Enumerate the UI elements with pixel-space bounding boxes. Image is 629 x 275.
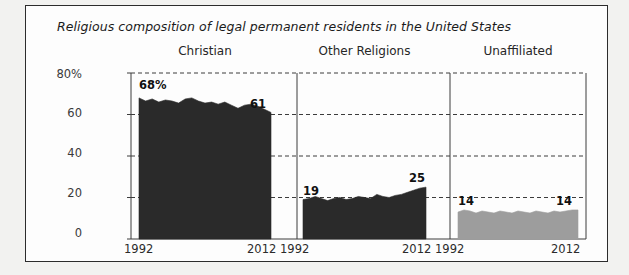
data-label-christian-start: 68% (139, 78, 167, 92)
area-unaffiliated (458, 210, 578, 239)
data-label-christian-end: 61 (250, 97, 266, 111)
y-tick-80: 80% (36, 67, 82, 81)
panel-title-unaffiliated: Unaffiliated (458, 44, 578, 58)
data-label-other-end: 25 (409, 171, 425, 185)
axis-lines (127, 73, 586, 239)
x-tick-other-start: 1992 (280, 242, 309, 256)
chart-figure: Religious composition of legal permanent… (25, 5, 608, 262)
y-tick-40: 40 (36, 146, 82, 160)
area-christian (139, 98, 271, 239)
x-tick-unaffiliated-end: 2012 (551, 242, 580, 256)
y-tick-60: 60 (36, 106, 82, 120)
x-tick-unaffiliated-start: 1992 (435, 242, 464, 256)
gridlines (131, 73, 586, 239)
area-series (139, 98, 578, 239)
data-label-unaffiliated-end: 14 (556, 194, 572, 208)
y-tick-0: 0 (36, 226, 82, 240)
chart-title: Religious composition of legal permanent… (57, 19, 511, 34)
x-tick-christian-end: 2012 (247, 242, 276, 256)
y-tick-20: 20 (36, 186, 82, 200)
panel-title-christian: Christian (139, 44, 271, 58)
x-tick-other-end: 2012 (402, 242, 431, 256)
data-label-unaffiliated-start: 14 (458, 194, 474, 208)
panel-title-other-religions: Other Religions (303, 44, 426, 58)
x-tick-christian-start: 1992 (124, 242, 153, 256)
area-other-religions (303, 187, 426, 239)
data-label-other-start: 19 (303, 184, 319, 198)
